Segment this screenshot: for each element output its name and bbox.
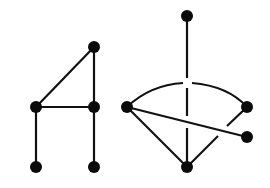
node-e [88,161,100,173]
node-g [121,101,133,113]
node-i [241,131,253,143]
node-h [241,101,253,113]
node-f [181,10,193,22]
right-graph [121,10,253,173]
edge-j-h-lower [187,136,218,167]
edge-g-j [127,107,187,167]
node-b [30,101,42,113]
edge-g-h-arc-right [192,83,247,107]
graph-diagram [0,0,270,188]
left-graph [30,41,100,173]
node-d [30,161,42,173]
node-c [88,101,100,113]
diagram-canvas [0,0,270,188]
edge-g-h-arc-left [127,83,183,107]
node-a [88,41,100,53]
edge-a-b [36,47,94,107]
node-j [181,161,193,173]
